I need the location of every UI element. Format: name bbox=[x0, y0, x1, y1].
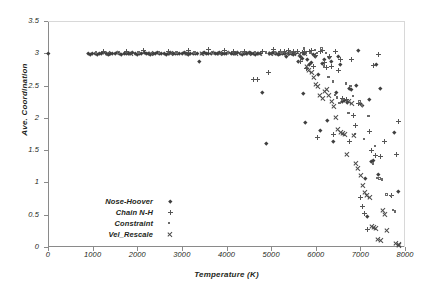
marker-cross-icon bbox=[338, 130, 343, 135]
x-axis-title: Temperature (K) bbox=[48, 270, 405, 279]
marker-diamond-icon bbox=[168, 200, 172, 204]
marker-cross-icon bbox=[106, 51, 111, 56]
marker-cross-icon bbox=[284, 51, 289, 56]
legend-item-constraint[interactable]: Constraint bbox=[60, 218, 178, 229]
legend-item-chain-n-h[interactable]: Chain N-H bbox=[60, 207, 178, 218]
y-axis-title: Ave. Coordination bbox=[20, 20, 29, 180]
marker-cross-icon bbox=[342, 132, 347, 137]
marker-cross-icon bbox=[269, 51, 274, 56]
marker-cross-icon bbox=[336, 127, 341, 132]
marker-cross-icon bbox=[367, 195, 372, 200]
marker-cross-icon bbox=[318, 93, 323, 98]
marker-cross-icon bbox=[394, 241, 399, 246]
marker-cross-icon bbox=[168, 51, 173, 56]
marker-cross-icon bbox=[233, 51, 238, 56]
marker-cross-icon bbox=[199, 51, 204, 56]
marker-cross-icon bbox=[358, 173, 363, 178]
marker-cross-icon bbox=[349, 101, 354, 106]
legend-item-label: Nose-Hoover bbox=[105, 197, 153, 206]
marker-cross-icon bbox=[184, 51, 189, 56]
legend-item-label: Vel_Rescale bbox=[108, 230, 153, 239]
legend-item-label: Constraint bbox=[115, 219, 154, 228]
legend-item-vel-rescale[interactable]: Vel_Rescale bbox=[60, 229, 178, 240]
legend-item-marker bbox=[162, 219, 178, 229]
marker-cross-icon bbox=[320, 96, 325, 101]
marker-cross-icon bbox=[376, 237, 381, 242]
marker-cross-icon bbox=[217, 51, 222, 56]
marker-cross-icon bbox=[331, 104, 336, 109]
marker-cross-icon bbox=[309, 70, 314, 75]
marker-cross-icon bbox=[291, 51, 296, 56]
marker-cross-icon bbox=[315, 84, 320, 89]
marker-cross-icon bbox=[307, 68, 312, 73]
marker-cross-icon bbox=[327, 93, 332, 98]
marker-plus-icon bbox=[168, 210, 173, 215]
marker-cross-icon bbox=[304, 64, 309, 69]
marker-cross-icon bbox=[378, 238, 383, 243]
marker-cross-icon bbox=[311, 75, 316, 80]
marker-cross-icon bbox=[373, 226, 378, 231]
marker-cross-icon bbox=[360, 183, 365, 188]
marker-cross-icon bbox=[380, 208, 385, 213]
legend-item-marker bbox=[162, 230, 178, 240]
scatter-chart: 00.511.522.533.5 01000200030004000500060… bbox=[0, 0, 425, 298]
marker-cross-icon bbox=[382, 212, 387, 217]
marker-cross-icon bbox=[324, 87, 329, 92]
marker-cross-icon bbox=[396, 242, 401, 247]
legend: Nose-HooverChain N-HConstraintVel_Rescal… bbox=[60, 196, 178, 240]
marker-cross-icon bbox=[353, 161, 358, 166]
marker-cross-icon bbox=[385, 228, 390, 233]
marker-cross-icon bbox=[371, 225, 376, 230]
marker-cross-icon bbox=[313, 82, 318, 87]
marker-cross-icon bbox=[298, 52, 303, 57]
legend-item-nose-hoover[interactable]: Nose-Hoover bbox=[60, 196, 178, 207]
marker-cross-icon bbox=[329, 99, 334, 104]
marker-cross-icon bbox=[168, 232, 173, 237]
marker-cross-icon bbox=[148, 51, 153, 56]
marker-cross-icon bbox=[302, 51, 307, 56]
legend-item-marker bbox=[162, 208, 178, 218]
marker-cross-icon bbox=[128, 51, 133, 56]
marker-cross-icon bbox=[362, 190, 367, 195]
legend-item-label: Chain N-H bbox=[116, 208, 153, 217]
marker-cross-icon bbox=[246, 51, 251, 56]
marker-cross-icon bbox=[356, 166, 361, 171]
marker-cross-icon bbox=[365, 193, 370, 198]
series-vel-rescale bbox=[0, 0, 425, 298]
marker-cross-icon bbox=[275, 51, 280, 56]
marker-cross-icon bbox=[351, 133, 356, 138]
marker-cross-icon bbox=[340, 131, 345, 136]
marker-square-icon bbox=[168, 222, 172, 226]
marker-cross-icon bbox=[322, 89, 327, 94]
marker-cross-icon bbox=[347, 99, 352, 104]
marker-cross-icon bbox=[369, 224, 374, 229]
marker-cross-icon bbox=[257, 51, 262, 56]
marker-cross-icon bbox=[397, 243, 402, 248]
marker-cross-icon bbox=[344, 152, 349, 157]
legend-item-marker bbox=[162, 197, 178, 207]
marker-cross-icon bbox=[333, 115, 338, 120]
